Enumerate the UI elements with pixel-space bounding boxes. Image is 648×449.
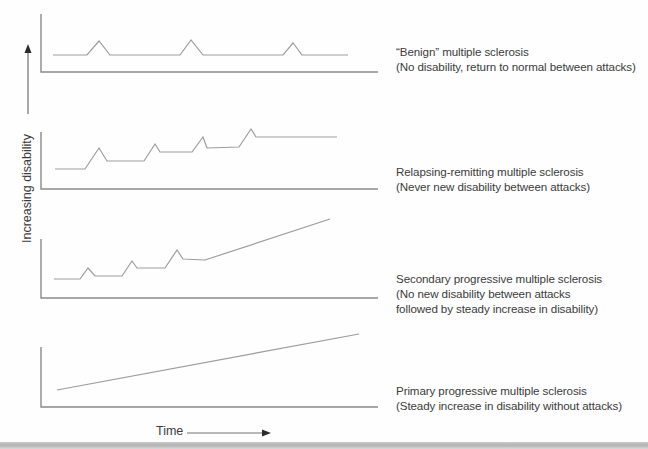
label-benign-ms-title: “Benign” multiple sclerosis	[396, 44, 636, 59]
axis-primary-progressive-ms	[41, 347, 378, 407]
label-relapsing-remitting-ms-sub: (Never new disability between attacks)	[396, 179, 590, 194]
label-secondary-progressive-ms: Secondary progressive multiple sclerosis…	[396, 271, 602, 316]
figure-container: Increasing disability “Benign” multiple …	[0, 0, 648, 449]
label-relapsing-remitting-ms-title: Relapsing-remitting multiple sclerosis	[396, 164, 590, 179]
label-secondary-progressive-ms-sub2: followed by steady increase in disabilit…	[396, 301, 602, 316]
right-arrowhead-icon	[262, 430, 271, 437]
up-arrowhead-icon	[25, 44, 32, 53]
label-primary-progressive-ms: Primary progressive multiple sclerosis (…	[396, 383, 622, 413]
axis-relapsing-remitting-ms	[41, 132, 378, 189]
label-benign-ms: “Benign” multiple sclerosis (No disabili…	[396, 44, 636, 74]
axis-secondary-progressive-ms	[41, 239, 378, 298]
y-axis-label: Increasing disability	[20, 134, 35, 243]
curve-primary-progressive-ms	[57, 334, 359, 390]
label-primary-progressive-ms-title: Primary progressive multiple sclerosis	[396, 383, 622, 398]
label-secondary-progressive-ms-sub1: (No new disability between attacks	[396, 286, 602, 301]
curve-benign-ms	[53, 40, 348, 55]
page-edge-shadow	[0, 442, 648, 449]
curve-secondary-progressive-ms	[54, 219, 330, 279]
label-secondary-progressive-ms-title: Secondary progressive multiple sclerosis	[396, 271, 602, 286]
label-benign-ms-sub: (No disability, return to normal between…	[396, 59, 636, 74]
label-relapsing-remitting-ms: Relapsing-remitting multiple sclerosis (…	[396, 164, 590, 194]
label-primary-progressive-ms-sub: (Steady increase in disability without a…	[396, 398, 622, 413]
x-axis-label: Time	[156, 424, 183, 439]
axis-benign-ms	[41, 14, 378, 72]
curve-relapsing-remitting-ms	[55, 129, 337, 169]
